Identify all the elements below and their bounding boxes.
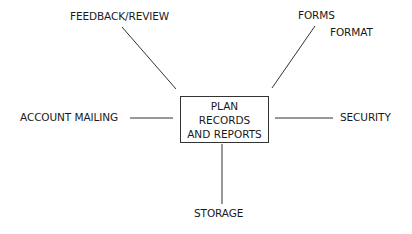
center-line-1: PLAN [181,99,268,113]
center-line-2: RECORDS [181,113,268,127]
node-storage: STORAGE [194,207,243,219]
center-node: PLAN RECORDS AND REPORTS [180,96,269,143]
node-feedback-review: FEEDBACK/REVIEW [70,10,169,22]
node-format: FORMAT [330,26,373,38]
connector-feedback [122,27,176,89]
node-forms: FORMS [298,9,335,21]
connector-forms [272,26,315,88]
node-account-mailing: ACCOUNT MAILING [20,111,118,123]
center-line-3: AND REPORTS [181,127,268,141]
node-security: SECURITY [340,111,391,123]
